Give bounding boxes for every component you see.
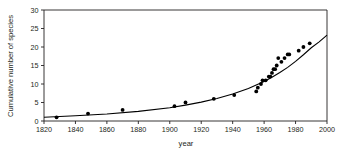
x-tick-label: 1840 [67, 125, 83, 134]
data-point [184, 101, 188, 105]
data-point [273, 67, 277, 71]
data-point [269, 75, 273, 79]
chart-figure: 1820184018601880190019201940196019802000… [0, 0, 349, 153]
data-point [121, 108, 125, 112]
data-point [280, 60, 284, 64]
data-point [212, 97, 216, 101]
x-tick-label: 1960 [256, 125, 272, 134]
y-tick-label: 30 [31, 6, 39, 15]
y-tick-label: 5 [35, 98, 39, 107]
data-point [308, 41, 312, 45]
data-point [302, 45, 306, 49]
data-point [283, 56, 287, 60]
x-tick-label: 1980 [288, 125, 304, 134]
y-tick-label: 20 [31, 43, 39, 52]
data-point [254, 90, 258, 94]
x-tick-label: 1900 [162, 125, 178, 134]
data-point [287, 53, 291, 57]
data-point [275, 64, 279, 68]
scatter-plot: 1820184018601880190019201940196019802000… [0, 0, 349, 153]
fitted-curve [44, 35, 327, 117]
data-point [55, 115, 59, 119]
x-tick-label: 1920 [193, 125, 209, 134]
y-tick-labels: 051015202530 [31, 6, 39, 126]
data-point [297, 49, 301, 53]
y-axis-title: Cumulative number of species [6, 15, 15, 117]
x-tick-label: 1820 [36, 125, 52, 134]
x-tick-labels: 1820184018601880190019201940196019802000 [36, 125, 335, 134]
tick-marks [41, 10, 327, 124]
x-tick-label: 1860 [99, 125, 115, 134]
x-tick-label: 2000 [319, 125, 335, 134]
data-point [270, 71, 274, 75]
y-tick-label: 25 [31, 24, 39, 33]
data-point [259, 82, 263, 86]
data-point [264, 78, 268, 82]
data-points [55, 41, 312, 119]
x-tick-label: 1940 [225, 125, 241, 134]
data-point [173, 104, 177, 108]
data-point [86, 112, 90, 116]
y-tick-label: 0 [35, 117, 39, 126]
data-point [276, 56, 280, 60]
data-point [232, 93, 236, 97]
x-axis-title: year [179, 139, 194, 148]
y-tick-label: 10 [31, 80, 39, 89]
y-tick-label: 15 [31, 61, 39, 70]
data-point [256, 86, 260, 90]
x-tick-label: 1880 [130, 125, 146, 134]
